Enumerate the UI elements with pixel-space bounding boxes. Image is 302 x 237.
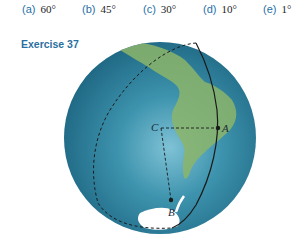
point-a-marker [216,126,220,130]
point-c-label: C [151,121,159,133]
globe-figure: C A B [0,0,302,237]
point-b-marker [169,198,173,202]
point-a-label: A [221,122,229,134]
point-b-label: B [168,206,175,218]
